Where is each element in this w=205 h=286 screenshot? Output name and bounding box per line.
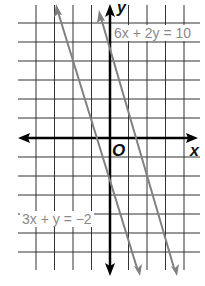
x-axis xyxy=(18,133,198,143)
arrow-down-icon xyxy=(171,264,179,276)
equation-label-3x-y-neg2: 3x + y = −2 xyxy=(20,211,94,227)
y-axis xyxy=(105,4,115,276)
x-axis-label: x xyxy=(190,142,199,160)
arrow-down-icon xyxy=(134,264,142,276)
origin-label: O xyxy=(112,141,125,161)
equation-label-6x-2y-10: 6x + 2y = 10 xyxy=(112,25,193,41)
coordinate-plane xyxy=(0,0,205,286)
y-axis-label: y xyxy=(117,0,126,17)
